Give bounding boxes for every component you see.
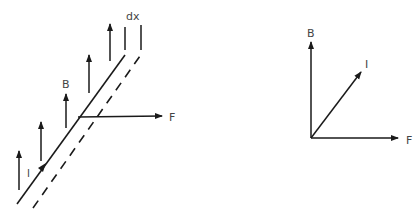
dx-label: dx xyxy=(126,10,140,23)
B-label-left: B xyxy=(62,78,70,91)
wire-solid-line xyxy=(17,55,125,204)
force-arrow xyxy=(78,116,162,117)
left-figure: dx B I F xyxy=(17,10,175,208)
F-label-right: F xyxy=(406,134,412,147)
I-vector xyxy=(311,72,361,138)
right-figure: B I F xyxy=(307,27,412,147)
F-label-left: F xyxy=(169,111,175,124)
I-label-left: I xyxy=(27,168,30,179)
wire-dashed-line xyxy=(33,56,140,208)
B-label-right: B xyxy=(307,27,315,40)
current-direction-arrow-icon xyxy=(38,163,46,172)
I-label-right: I xyxy=(365,58,368,71)
diagram-canvas: dx B I F B I F xyxy=(0,0,420,219)
